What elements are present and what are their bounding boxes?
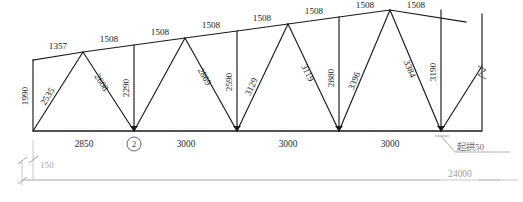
web-label-diagonal-5: 3119 [299, 62, 316, 83]
web-diagonal-3 [134, 38, 185, 131]
break-symbol [478, 66, 486, 79]
top-chord-label-5: 1508 [253, 13, 272, 23]
web-label-vertical-3: 2590 [224, 72, 234, 91]
web-label-vertical-5: 3190 [428, 62, 438, 81]
web-label-diagonal-1: 2535 [38, 86, 56, 107]
top-chord-label-4: 1508 [202, 20, 221, 30]
top-chord-label-1: 1357 [49, 41, 68, 51]
truss-svg-canvas: 1357 1508 1508 1508 1508 1508 1508 1508 … [0, 0, 523, 202]
top-chord-label-3: 1508 [151, 27, 170, 37]
top-chord-label-6: 1508 [305, 6, 324, 16]
left-offset-label: 150 [40, 160, 54, 170]
web-label-diagonal-7: 3384 [402, 58, 419, 79]
web-diagonal-1 [33, 52, 83, 131]
node-marker-label: 2 [132, 140, 136, 149]
top-chord-label-2: 1508 [100, 34, 119, 44]
bottom-panel-label-3: 3000 [279, 139, 298, 149]
camber-annotation: 起拱50 [435, 136, 510, 152]
camber-note-label: 起拱50 [457, 141, 485, 152]
web-diagonal-9-partial [441, 66, 482, 131]
web-label-vertical-2: 2290 [121, 78, 131, 97]
bottom-panel-label-2: 3000 [177, 139, 196, 149]
web-label-vertical-4: 2880 [326, 68, 336, 87]
bottom-panel-labels: 2850 3000 3000 3000 [75, 139, 400, 149]
truss-elevation-drawing: 1357 1508 1508 1508 1508 1508 1508 1508 … [0, 0, 523, 202]
bottom-panel-label-4: 3000 [381, 139, 400, 149]
node-marker-2: 2 [127, 137, 141, 151]
web-label-left-vertical: 1990 [20, 86, 30, 105]
bottom-panel-label-1: 2850 [75, 139, 94, 149]
web-label-diagonal-4: 3129 [243, 76, 260, 97]
overall-span-dimension: 24000 [22, 169, 518, 180]
web-member-labels: 1990 2535 2608 2290 2869 2590 3129 3119 … [20, 58, 438, 106]
web-diagonal-7 [339, 10, 390, 131]
top-chord-label-8: 1508 [407, 0, 426, 10]
overall-span-label: 24000 [448, 169, 472, 179]
top-chord-label-7: 1508 [356, 0, 375, 10]
web-diagonal-5 [237, 24, 288, 131]
